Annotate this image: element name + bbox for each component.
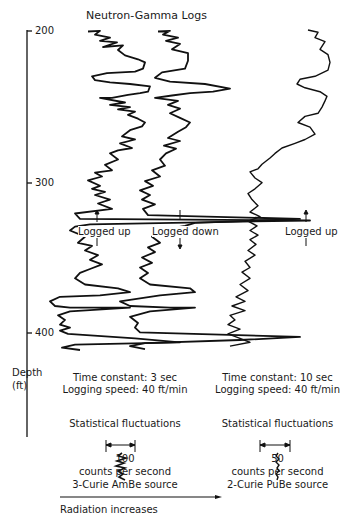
- radiation-arrowhead: [215, 495, 222, 499]
- right-scale-value: 50: [200, 452, 353, 465]
- tick-label-200: 200: [35, 25, 54, 36]
- right-time-constant: Time constant: 10 sec: [200, 372, 353, 384]
- right-fluctuations-label: Statistical fluctuations: [200, 418, 353, 429]
- left-panel-settings: Time constant: 3 sec Logging speed: 40 f…: [50, 372, 200, 396]
- radiation-label: Radiation increases: [60, 504, 158, 515]
- annotation-logged-down: Logged down: [152, 226, 219, 237]
- right-logging-speed: Logging speed: 40 ft/min: [200, 384, 353, 396]
- log-curves: [50, 30, 330, 350]
- left-units: counts per second: [50, 465, 200, 478]
- right-source: 2-Curie PuBe source: [200, 478, 353, 491]
- annotation-logged-up-left: Logged up: [78, 226, 131, 237]
- log-curve-1: [50, 31, 310, 350]
- tick-label-400: 400: [35, 327, 54, 338]
- tick-label-300: 300: [35, 177, 54, 188]
- left-source: 3-Curie AmBe source: [50, 478, 200, 491]
- left-logging-speed: Logging speed: 40 ft/min: [50, 384, 200, 396]
- right-panel-settings: Time constant: 10 sec Logging speed: 40 …: [200, 372, 353, 396]
- left-time-constant: Time constant: 3 sec: [50, 372, 200, 384]
- right-panel-scale: 50 counts per second 2-Curie PuBe source: [200, 452, 353, 491]
- left-fluctuations-label: Statistical fluctuations: [50, 418, 200, 429]
- axis-label-unit: (ft): [12, 380, 27, 391]
- left-panel-scale: 100 counts per second 3-Curie AmBe sourc…: [50, 452, 200, 491]
- axis-label-depth: Depth: [12, 367, 42, 378]
- left-scale-value: 100: [50, 452, 200, 465]
- log-curve-3: [228, 30, 330, 346]
- scale-bar-right: [260, 440, 290, 452]
- annotation-logged-up-right: Logged up: [285, 226, 338, 237]
- scale-bar-left: [106, 440, 135, 452]
- right-units: counts per second: [200, 465, 353, 478]
- chart-title: Neutron-Gamma Logs: [86, 9, 207, 22]
- log-curve-2: [120, 31, 300, 349]
- log-plot: [0, 0, 353, 523]
